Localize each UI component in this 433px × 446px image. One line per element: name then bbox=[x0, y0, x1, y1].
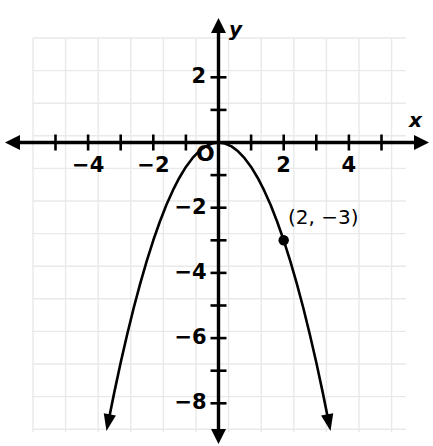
point-annotation-label: (2, −3) bbox=[288, 207, 359, 227]
coordinate-plane-svg bbox=[0, 0, 433, 446]
graph-figure: x y O (2, −3) −4−2242−2−4−6−8 bbox=[0, 0, 433, 446]
y-tick-label: −8 bbox=[175, 392, 207, 413]
y-tick-label: −4 bbox=[175, 262, 207, 283]
y-axis-label: y bbox=[229, 19, 242, 39]
point-marker bbox=[279, 235, 289, 245]
x-tick-label: −2 bbox=[137, 155, 169, 176]
x-axis-label: x bbox=[409, 110, 422, 130]
y-tick-label: −2 bbox=[175, 197, 207, 218]
x-tick-label: −4 bbox=[72, 155, 104, 176]
origin-label: O bbox=[196, 143, 215, 165]
x-tick-label: 2 bbox=[276, 155, 291, 176]
y-tick-label: −6 bbox=[175, 327, 207, 348]
axes bbox=[5, 18, 429, 444]
y-tick-label: 2 bbox=[192, 66, 207, 87]
x-tick-label: 4 bbox=[341, 155, 356, 176]
